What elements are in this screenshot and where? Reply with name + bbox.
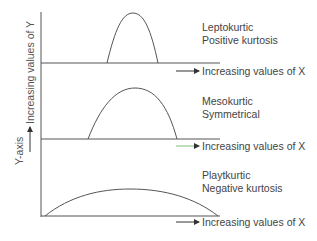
curve-name: Leptokurtic [202,21,278,34]
x-axis-label-2: Increasing values of X [202,140,305,152]
platykurtic-curve [45,189,218,216]
curve-description: Negative kurtosis [202,182,283,195]
y-direction-label: Increasing values of Y [24,21,36,124]
x-axis-label-3: Increasing values of X [202,216,305,228]
y-axis-label: Y-axis [13,137,25,165]
curve-name: Mesokurtic [202,95,260,108]
curve-description: Symmetrical [202,108,260,121]
platykurtic-label: Playtkurtic Negative kurtosis [202,169,283,195]
curve-name: Playtkurtic [202,169,283,182]
leptokurtic-curve [107,13,158,63]
mesokurtic-label: Mesokurtic Symmetrical [202,95,260,121]
leptokurtic-label: Leptokurtic Positive kurtosis [202,21,278,47]
mesokurtic-curve [88,88,177,139]
x-axis-label-1: Increasing values of X [202,65,305,77]
curve-description: Positive kurtosis [202,34,278,47]
